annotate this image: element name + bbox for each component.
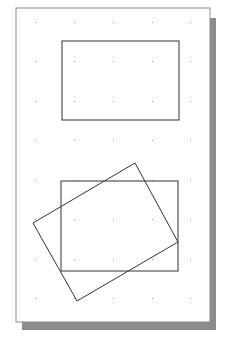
grid-dot — [190, 219, 191, 220]
grid-dot — [190, 180, 191, 181]
grid-dot — [190, 61, 191, 62]
grid-dot — [152, 219, 153, 220]
grid-dot — [35, 259, 36, 260]
grid-dot — [35, 101, 36, 102]
diagram-canvas — [0, 0, 228, 340]
grid-dot — [152, 101, 153, 102]
grid-dot — [35, 298, 36, 299]
grid-dot — [113, 101, 114, 102]
grid-dot — [74, 140, 75, 141]
grid-dot — [113, 61, 114, 62]
grid-dot — [74, 259, 75, 260]
grid-dot — [152, 140, 153, 141]
grid-dot — [35, 180, 36, 181]
grid-dot — [74, 219, 75, 220]
grid-dot — [35, 22, 36, 23]
grid-dot — [190, 298, 191, 299]
grid-dot — [152, 259, 153, 260]
grid-dot — [152, 22, 153, 23]
grid-dot — [74, 61, 75, 62]
grid-dot — [113, 219, 114, 220]
grid-dot — [113, 259, 114, 260]
grid-dot — [74, 22, 75, 23]
grid-dot — [35, 219, 36, 220]
grid-dot — [74, 101, 75, 102]
grid-dot — [190, 140, 191, 141]
grid-dot — [35, 61, 36, 62]
grid-dot — [152, 61, 153, 62]
grid-dot — [190, 22, 191, 23]
grid-dot — [113, 22, 114, 23]
page-sheet — [16, 8, 210, 322]
grid-dot — [113, 298, 114, 299]
grid-dot — [190, 101, 191, 102]
grid-dot — [35, 140, 36, 141]
grid-dot — [190, 259, 191, 260]
grid-dot — [113, 140, 114, 141]
grid-dot — [152, 298, 153, 299]
